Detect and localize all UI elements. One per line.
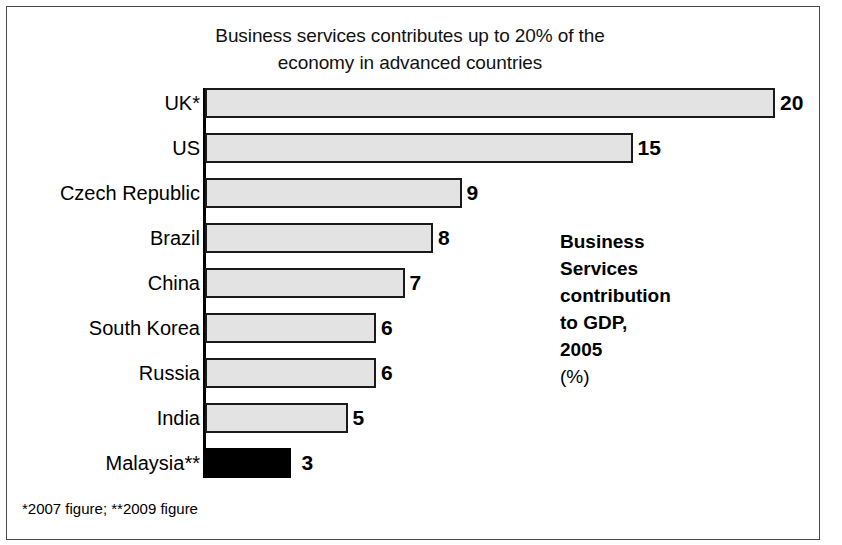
bar-value-label: 6 (381, 313, 393, 343)
chart-figure: Business services contributes up to 20% … (0, 0, 842, 545)
category-label: US (172, 133, 200, 163)
annotation-line-5: 2005 (560, 336, 790, 363)
bar-value-label: 3 (302, 448, 314, 478)
bar-row: US15 (0, 133, 842, 178)
category-label: Brazil (150, 223, 200, 253)
chart-title-line-1: Business services contributes up to 20% … (60, 22, 760, 49)
bar-value-label: 8 (438, 223, 450, 253)
bar-row: India5 (0, 403, 842, 448)
bar (205, 223, 433, 253)
category-label: India (157, 403, 200, 433)
category-label: Czech Republic (60, 178, 200, 208)
bar (205, 133, 633, 163)
bar-highlighted (205, 448, 291, 478)
bar-row: Malaysia**3 (0, 448, 842, 493)
bar-value-label: 20 (780, 88, 803, 118)
bar-value-label: 7 (410, 268, 422, 298)
category-label: China (148, 268, 200, 298)
annotation-line-1: Business (560, 228, 790, 255)
category-label: South Korea (89, 313, 200, 343)
bar (205, 403, 348, 433)
annotation-line-2: Services (560, 255, 790, 282)
category-label: Malaysia** (106, 448, 200, 478)
chart-footnote: *2007 figure; **2009 figure (22, 500, 198, 517)
bar (205, 268, 405, 298)
annotation-unit: (%) (560, 363, 790, 390)
bar (205, 358, 376, 388)
bar (205, 178, 462, 208)
annotation-line-4: to GDP, (560, 309, 790, 336)
chart-title-line-2: economy in advanced countries (60, 49, 760, 76)
series-annotation: Business Services contribution to GDP, 2… (560, 228, 790, 390)
annotation-line-3: contribution (560, 282, 790, 309)
bar-value-label: 6 (381, 358, 393, 388)
bar-value-label: 9 (467, 178, 479, 208)
bar-row: Czech Republic9 (0, 178, 842, 223)
bar-row: UK*20 (0, 88, 842, 133)
category-label: Russia (139, 358, 200, 388)
category-label: UK* (164, 88, 200, 118)
bar (205, 88, 775, 118)
bar (205, 313, 376, 343)
chart-title: Business services contributes up to 20% … (60, 22, 760, 76)
bar-value-label: 15 (638, 133, 661, 163)
bar-value-label: 5 (353, 403, 365, 433)
